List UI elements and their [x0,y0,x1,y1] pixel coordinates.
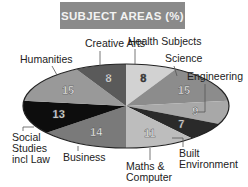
label-social-studies: Social Studies incl Law [12,132,50,165]
label-humanities: Humanities [20,54,73,65]
label-built-line2: Environment [179,159,238,170]
label-health-subjects: Health Subjects [128,36,202,47]
slice-value-label: 14 [90,126,103,138]
slice-value-label: 7 [178,118,184,130]
slice-value-label: 15 [62,84,74,96]
label-engineering: Engineering [187,71,243,82]
label-built-environment: Built Environment [179,148,238,170]
slice-value-label: 9 [192,105,198,117]
slice-value-label: 15 [178,84,190,96]
label-maths-line2: Computer [126,172,172,183]
leader-line [52,66,57,75]
label-science: Science [165,53,202,64]
slice-value-label: 11 [144,127,156,139]
slice-value-label: 8 [140,72,146,84]
label-business: Business [63,152,106,163]
label-social-line3: incl Law [12,154,50,165]
label-maths-computer: Maths & Computer [126,161,172,183]
slice-value-label: 13 [53,108,65,120]
slice-value-label: 8 [106,72,112,84]
